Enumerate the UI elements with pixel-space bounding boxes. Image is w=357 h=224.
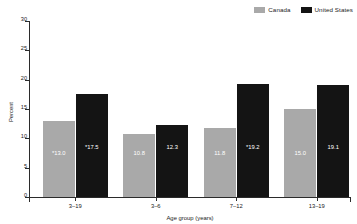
legend-entry-united-states: United States bbox=[301, 7, 353, 13]
legend-label-united-states: United States bbox=[315, 7, 353, 13]
x-axis-line bbox=[29, 197, 351, 198]
x-tick-mark bbox=[29, 198, 30, 202]
x-tick-mark bbox=[75, 197, 76, 201]
bar-value-label: *17.5 bbox=[76, 145, 108, 151]
bar-united-states[interactable]: *17.5 bbox=[76, 94, 108, 197]
x-tick-mark bbox=[317, 197, 318, 201]
bar-value-label: *13.0 bbox=[43, 151, 75, 157]
y-tick-label: 25 bbox=[21, 46, 27, 52]
bar-canada[interactable]: 11.8 bbox=[204, 128, 236, 197]
bar-canada[interactable]: 15.0 bbox=[284, 109, 316, 197]
x-tick-mark bbox=[350, 198, 351, 202]
x-tick-label: 3–19 bbox=[35, 204, 115, 210]
x-tick-label: 7–12 bbox=[196, 204, 276, 210]
x-tick-mark bbox=[236, 197, 237, 201]
x-tick-mark bbox=[156, 197, 157, 201]
x-tick-label: 13–19 bbox=[277, 204, 357, 210]
legend-entry-canada: Canada bbox=[254, 7, 290, 13]
bar-value-label: 11.8 bbox=[204, 151, 236, 157]
chart-figure: Canada United States Percent 05101520253… bbox=[0, 0, 357, 224]
y-tick-label: 5 bbox=[24, 164, 27, 170]
bar-canada[interactable]: 10.8 bbox=[123, 134, 155, 197]
bar-value-label: 15.0 bbox=[284, 151, 316, 157]
x-axis-title: Age group (years) bbox=[29, 216, 351, 222]
bar-value-label: 10.8 bbox=[123, 151, 155, 157]
legend-swatch-canada bbox=[254, 7, 265, 13]
plot-area: 051015202530 *13.0*17.53–1910.812.33–611… bbox=[29, 21, 351, 198]
bar-united-states[interactable]: *19.2 bbox=[237, 84, 269, 197]
bar-group: 10.812.33–6 bbox=[123, 21, 188, 197]
y-tick-label: 10 bbox=[21, 134, 27, 140]
bar-united-states[interactable]: 12.3 bbox=[156, 125, 188, 197]
bar-united-states[interactable]: 19.1 bbox=[317, 85, 349, 197]
y-tick-label: 15 bbox=[21, 105, 27, 111]
y-tick-label: 30 bbox=[21, 17, 27, 23]
y-axis-title: Percent bbox=[9, 102, 15, 122]
chart-legend: Canada United States bbox=[254, 7, 353, 13]
bar-value-label: *19.2 bbox=[237, 145, 269, 151]
bar-value-label: 12.3 bbox=[156, 145, 188, 151]
bar-group: 15.019.113–19 bbox=[284, 21, 349, 197]
bar-group: *13.0*17.53–19 bbox=[43, 21, 108, 197]
bar-group: 11.8*19.27–12 bbox=[204, 21, 269, 197]
y-tick-label: 20 bbox=[21, 76, 27, 82]
x-tick-label: 3–6 bbox=[116, 204, 196, 210]
bar-value-label: 19.1 bbox=[317, 145, 349, 151]
y-axis-line bbox=[29, 21, 30, 198]
legend-swatch-united-states bbox=[301, 7, 312, 13]
legend-label-canada: Canada bbox=[268, 7, 290, 13]
y-tick-label: 0 bbox=[24, 193, 27, 199]
bar-canada[interactable]: *13.0 bbox=[43, 121, 75, 197]
